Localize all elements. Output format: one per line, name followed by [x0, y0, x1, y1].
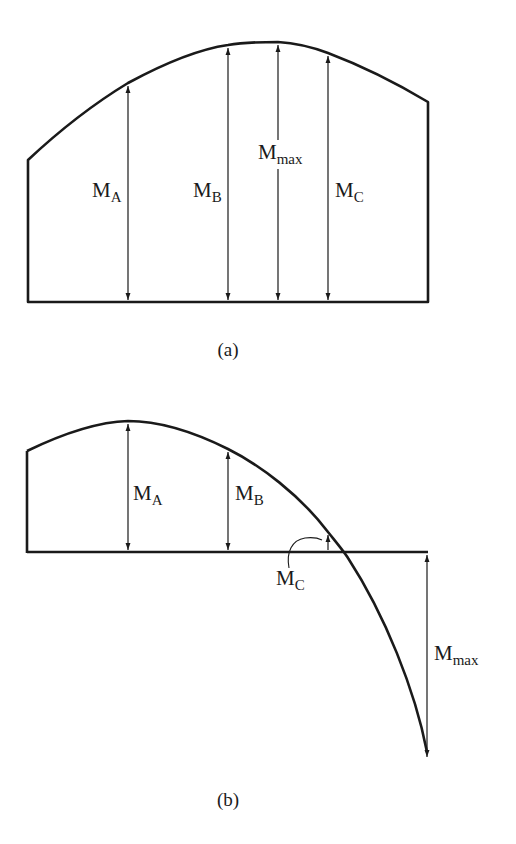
label-mb-a: MB — [193, 180, 222, 205]
label-ma-b: MA — [133, 483, 163, 508]
caption-a: (a) — [217, 340, 238, 359]
label-ma-a: MA — [92, 180, 122, 205]
label-mb-b: MB — [235, 483, 264, 508]
panel-b — [27, 421, 428, 757]
label-mmax-b: Mmax — [434, 643, 479, 668]
panel-a — [28, 42, 428, 302]
caption-b: (b) — [217, 790, 239, 809]
label-mc-b: MC — [276, 568, 305, 593]
label-mc-a: MC — [335, 180, 364, 205]
label-mmax-a: Mmax — [258, 140, 303, 169]
moment-curve-b — [27, 421, 427, 752]
moment-diagrams — [0, 0, 516, 844]
